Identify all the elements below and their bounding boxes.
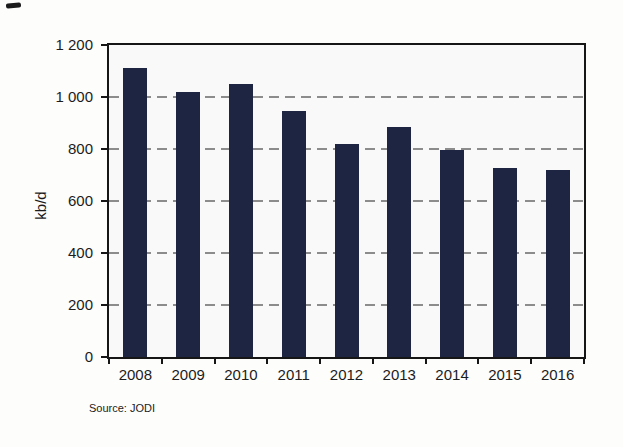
y-tick-label-1000: 1 000 — [18, 88, 93, 106]
y-tick-label-0: 0 — [18, 348, 93, 366]
x-tick-9 — [583, 359, 585, 364]
x-tick-label-2011: 2011 — [278, 366, 310, 384]
x-tick-label-2014: 2014 — [435, 366, 468, 384]
x-tick-label-2008: 2008 — [119, 366, 152, 384]
bar-2008 — [123, 68, 147, 357]
bar-2016 — [546, 170, 570, 357]
y-tick-200 — [101, 304, 107, 306]
x-tick-label-2010: 2010 — [224, 366, 257, 384]
x-tick-5 — [372, 359, 374, 364]
y-tick-400 — [101, 252, 107, 254]
bar-2010 — [229, 84, 253, 357]
y-tick-1200 — [101, 44, 107, 46]
y-tick-800 — [101, 148, 107, 150]
x-tick-3 — [266, 359, 268, 364]
bar-2011 — [282, 111, 306, 357]
y-tick-label-800: 800 — [18, 140, 93, 158]
y-tick-label-400: 400 — [18, 244, 93, 262]
x-tick-label-2012: 2012 — [330, 366, 363, 384]
x-tick-label-2015: 2015 — [488, 366, 521, 384]
bar-2009 — [176, 92, 200, 357]
y-tick-label-1200: 1 200 — [18, 36, 93, 54]
y-tick-600 — [101, 200, 107, 202]
x-tick-2 — [214, 359, 216, 364]
x-tick-label-2009: 2009 — [171, 366, 204, 384]
x-tick-0 — [108, 359, 110, 364]
x-tick-label-2016: 2016 — [541, 366, 574, 384]
x-tick-4 — [319, 359, 321, 364]
chart-page: kb/d Source: JODI 02004006008001 0001 20… — [0, 0, 623, 447]
plot-area — [107, 43, 586, 359]
x-tick-1 — [161, 359, 163, 364]
y-tick-label-200: 200 — [18, 296, 93, 314]
x-tick-8 — [530, 359, 532, 364]
bar-2012 — [335, 144, 359, 357]
bar-2013 — [387, 127, 411, 357]
x-tick-6 — [425, 359, 427, 364]
bar-2015 — [493, 168, 517, 357]
y-tick-label-600: 600 — [18, 192, 93, 210]
x-tick-7 — [477, 359, 479, 364]
y-tick-0 — [101, 356, 107, 358]
x-tick-label-2013: 2013 — [383, 366, 416, 384]
scan-artifact-mark — [6, 2, 21, 8]
source-note: Source: JODI — [89, 402, 155, 414]
y-tick-1000 — [101, 96, 107, 98]
bar-2014 — [440, 150, 464, 357]
